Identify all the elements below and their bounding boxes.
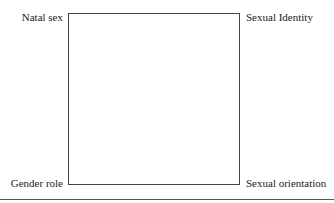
label-gender-role: Gender role bbox=[11, 177, 63, 190]
label-sexual-orientation: Sexual orientation bbox=[246, 177, 326, 190]
bottom-divider bbox=[0, 199, 334, 200]
square-diagram-frame bbox=[68, 13, 240, 185]
label-natal-sex: Natal sex bbox=[22, 11, 63, 24]
label-sexual-identity: Sexual Identity bbox=[246, 11, 313, 24]
